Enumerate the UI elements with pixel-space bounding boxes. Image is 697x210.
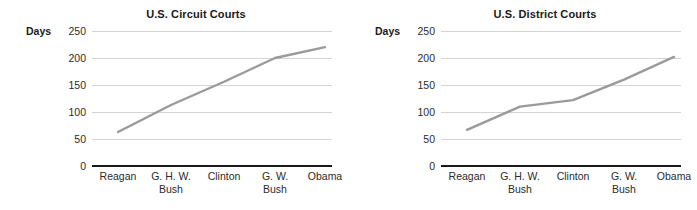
y-tick-label-50-district: 50 <box>401 133 435 145</box>
x-tick-line2: Bush <box>500 183 540 196</box>
figure-container: U.S. Circuit Courts Days 250 200 150 100… <box>0 0 697 210</box>
chart-title-circuit: U.S. Circuit Courts <box>0 8 348 20</box>
x-tick-clinton-circuit: Clinton <box>208 170 241 183</box>
y-axis-unit-label-circuit: Days <box>26 25 51 37</box>
series-line-circuit <box>92 31 332 166</box>
x-tick-line1: Clinton <box>557 170 590 183</box>
x-tick-gw-bush-circuit: G. W. Bush <box>262 170 288 195</box>
y-tick-label-150-district: 150 <box>401 79 435 91</box>
series-polyline-circuit <box>118 47 325 132</box>
x-tick-line1: G. H. W. <box>500 170 540 183</box>
chart-title-district: U.S. District Courts <box>349 8 697 20</box>
plot-area-circuit: 250 200 150 100 50 0 <box>92 31 332 166</box>
x-tick-reagan-district: Reagan <box>449 170 486 183</box>
x-axis-labels-district: Reagan G. H. W. Bush Clinton G. W. Bush … <box>441 170 681 204</box>
x-axis-labels-circuit: Reagan G. H. W. Bush Clinton G. W. Bush … <box>92 170 332 204</box>
x-tick-line1: Obama <box>308 170 342 183</box>
chart-panel-circuit-courts: U.S. Circuit Courts Days 250 200 150 100… <box>0 0 348 210</box>
y-tick-label-250-district: 250 <box>401 25 435 37</box>
x-tick-line2: Bush <box>611 183 637 196</box>
x-tick-reagan-circuit: Reagan <box>100 170 137 183</box>
x-tick-obama-circuit: Obama <box>308 170 342 183</box>
x-tick-gw-bush-district: G. W. Bush <box>611 170 637 195</box>
x-tick-line2: Bush <box>262 183 288 196</box>
y-tick-label-250-circuit: 250 <box>52 25 86 37</box>
plot-area-district: 250 200 150 100 50 0 <box>441 31 681 166</box>
x-tick-line1: Reagan <box>449 170 486 183</box>
x-tick-line1: G. H. W. <box>151 170 191 183</box>
y-tick-label-0-circuit: 0 <box>52 160 86 172</box>
x-tick-line1: Obama <box>657 170 691 183</box>
series-polyline-district <box>467 57 674 130</box>
x-tick-line1: G. W. <box>262 170 288 183</box>
x-tick-clinton-district: Clinton <box>557 170 590 183</box>
x-tick-obama-district: Obama <box>657 170 691 183</box>
y-tick-label-200-circuit: 200 <box>52 52 86 64</box>
x-tick-line1: G. W. <box>611 170 637 183</box>
x-tick-ghw-bush-circuit: G. H. W. Bush <box>151 170 191 195</box>
chart-panel-district-courts: U.S. District Courts Days 250 200 150 10… <box>349 0 697 210</box>
series-line-district <box>441 31 681 166</box>
x-tick-line1: Clinton <box>208 170 241 183</box>
y-tick-label-0-district: 0 <box>401 160 435 172</box>
x-tick-ghw-bush-district: G. H. W. Bush <box>500 170 540 195</box>
x-tick-line2: Bush <box>151 183 191 196</box>
y-tick-label-100-district: 100 <box>401 106 435 118</box>
x-tick-line1: Reagan <box>100 170 137 183</box>
y-tick-label-100-circuit: 100 <box>52 106 86 118</box>
y-tick-label-50-circuit: 50 <box>52 133 86 145</box>
y-axis-unit-label-district: Days <box>375 25 400 37</box>
y-tick-label-200-district: 200 <box>401 52 435 64</box>
y-tick-label-150-circuit: 150 <box>52 79 86 91</box>
